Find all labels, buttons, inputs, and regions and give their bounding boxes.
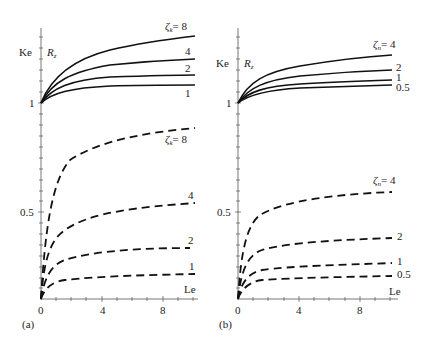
x-tick-label-4: 4 (100, 304, 106, 316)
rz-axis-label: Rz (243, 57, 254, 71)
x-tick-label-8: 8 (357, 304, 363, 316)
ke-axis-label: Ke (19, 46, 32, 58)
ke-label-zeta-4: ζn= 4 (373, 38, 396, 52)
ke-curve-zeta-0-5 (238, 85, 392, 103)
ke-curves (238, 55, 392, 103)
x-axis-label: Le (184, 283, 196, 295)
rz-curve-zeta-0-5 (238, 276, 392, 299)
rz-curve-zeta-8 (41, 128, 195, 299)
rz-curves (41, 128, 195, 299)
y-tick-label-0-5: 0.5 (20, 206, 34, 218)
rz-label-zeta-4: ζn= 4 (373, 174, 396, 188)
x-tick-label-0: 0 (235, 304, 241, 316)
panel-tag: (a) (22, 318, 35, 331)
rz-curve-zeta-4 (41, 203, 195, 299)
figure: Ke Rz 1 0.5 0 4 8 Le (a) ζk= 8 4 2 1 ζk=… (0, 0, 430, 345)
ke-label-zeta-2: 2 (185, 62, 191, 74)
ke-curve-zeta-1 (41, 85, 195, 103)
ke-label-zeta-4: 4 (185, 45, 191, 57)
rz-label-zeta-1: 1 (189, 260, 195, 272)
rz-label-zeta-8: ζk= 8 (165, 133, 188, 147)
rz-curve-zeta-2 (238, 238, 392, 299)
rz-label-zeta-1: 1 (397, 255, 403, 267)
y-tick-label-0-5: 0.5 (217, 206, 231, 218)
ke-label-zeta-1: 1 (185, 87, 191, 99)
x-tick-label-4: 4 (296, 304, 302, 316)
ke-curve-zeta-4 (238, 55, 392, 103)
ke-curve-zeta-8 (41, 36, 195, 103)
ke-label-zeta-8: ζk= 8 (165, 20, 188, 34)
ke-curve-zeta-4 (41, 59, 195, 103)
rz-curve-zeta-4 (238, 192, 392, 299)
x-tick-label-8: 8 (160, 304, 166, 316)
ke-curves (41, 36, 195, 103)
rz-curve-zeta-2 (41, 248, 190, 299)
x-tick-label-0: 0 (38, 304, 44, 316)
panel-b: Ke Rz 1 0.5 0 4 8 Le (b) ζn= 4 2 1 0.5 ζ… (216, 28, 411, 331)
rz-curve-zeta-1 (41, 274, 195, 299)
rz-axis-label: Rz (46, 46, 57, 60)
ke-curve-zeta-1 (238, 80, 392, 103)
panel-a: Ke Rz 1 0.5 0 4 8 Le (a) ζk= 8 4 2 1 ζk=… (19, 20, 198, 331)
ke-axis-label: Ke (216, 57, 229, 69)
panel-tag: (b) (219, 318, 232, 331)
y-tick-label-1: 1 (226, 97, 232, 109)
rz-curves (238, 192, 392, 299)
ke-label-zeta-0-5: 0.5 (396, 81, 410, 93)
y-tick-label-1: 1 (29, 97, 35, 109)
rz-label-zeta-0-5: 0.5 (397, 268, 411, 280)
rz-label-zeta-2: 2 (397, 230, 403, 242)
x-axis-label: Le (389, 285, 401, 297)
rz-label-zeta-4: 4 (188, 189, 194, 201)
rz-label-zeta-2: 2 (188, 234, 194, 246)
